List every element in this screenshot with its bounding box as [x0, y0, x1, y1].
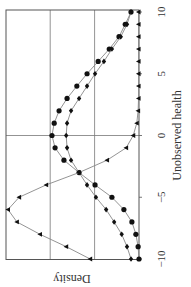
circle-marker — [121, 207, 126, 212]
triangle-marker — [14, 220, 19, 225]
plot-frame — [6, 10, 139, 260]
triangle-marker — [88, 257, 93, 262]
diamond-marker — [129, 256, 133, 262]
tick-label: −5 — [155, 191, 167, 203]
triangle-marker — [64, 244, 69, 249]
triangle-marker — [37, 232, 42, 237]
triangle-marker — [44, 183, 49, 188]
diamond-marker — [65, 120, 69, 126]
tick-label: 10 — [155, 6, 167, 18]
circle-marker — [136, 244, 141, 249]
circle-marker — [52, 145, 57, 150]
density-chart: −10−50510 Density Unobserved health — [0, 0, 191, 287]
x-axis-ticks: −10−50510 — [139, 6, 167, 268]
circle-marker — [136, 256, 141, 261]
y-axis-title: Density — [53, 272, 90, 286]
x-axis-title: Unobserved health — [170, 90, 184, 180]
circle-marker — [56, 108, 61, 113]
circle-marker — [109, 195, 114, 200]
gridlines — [6, 10, 139, 260]
circle-marker — [64, 96, 69, 101]
diamond-marker — [65, 145, 69, 151]
diamond-marker — [64, 133, 68, 139]
diamond-marker — [125, 244, 129, 250]
tick-label: 0 — [155, 132, 167, 138]
tick-label: 5 — [155, 71, 167, 77]
circle-marker — [74, 84, 79, 89]
circle-marker — [92, 182, 97, 187]
tick-label: −10 — [155, 250, 167, 268]
triangle-marker — [131, 133, 136, 138]
circle-marker — [61, 158, 66, 163]
circle-marker — [96, 59, 101, 64]
circle-marker — [52, 121, 57, 126]
triangle-marker — [104, 158, 109, 163]
circle-marker — [129, 219, 134, 224]
circle-marker — [84, 71, 89, 76]
circle-marker — [49, 133, 54, 138]
circle-marker — [133, 232, 138, 237]
